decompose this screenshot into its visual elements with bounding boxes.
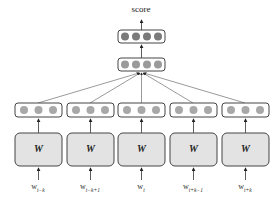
input-label: wt+k−1 [168, 182, 218, 193]
weight-label: W [67, 143, 114, 154]
score-label: score [116, 4, 166, 14]
weight-label: W [222, 143, 269, 154]
column-1 [15, 103, 62, 180]
input-label: wt−k [13, 182, 63, 193]
diagram-canvas [0, 0, 279, 201]
input-label: wt−k+1 [65, 182, 115, 193]
input-label: wt [116, 182, 166, 193]
input-label: wt+k [220, 182, 270, 193]
column-4 [170, 103, 217, 180]
weight-label: W [118, 143, 165, 154]
column-5 [222, 103, 269, 180]
weight-label: W [170, 143, 217, 154]
column-2 [67, 103, 114, 180]
weight-label: W [15, 143, 62, 154]
column-3 [118, 103, 165, 180]
